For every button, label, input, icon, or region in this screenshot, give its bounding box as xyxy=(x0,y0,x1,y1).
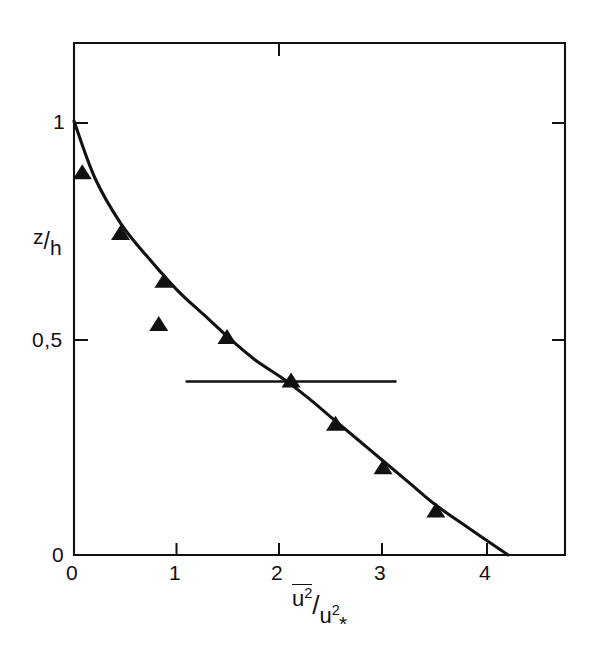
y-axis-label-numerator: z xyxy=(33,225,44,248)
plot-border xyxy=(74,43,565,555)
y-tick-label-0: 0 xyxy=(52,543,64,567)
x-axis-label-denominator-subscript: * xyxy=(339,612,347,635)
y-tick-label-1: 1 xyxy=(53,110,65,134)
data-point-marker xyxy=(326,416,345,431)
x-axis-label: u2/u2* xyxy=(292,592,348,623)
x-tick-label-0: 0 xyxy=(66,561,78,585)
x-axis-label-slash: / xyxy=(312,590,319,620)
x-tick-label-1: 1 xyxy=(169,561,181,585)
axes-frame xyxy=(74,43,565,555)
data-point-marker xyxy=(149,316,168,331)
y-axis-label: z/h xyxy=(33,230,62,253)
x-axis-label-denominator: u2* xyxy=(320,603,348,628)
x-axis-label-numerator-exponent: 2 xyxy=(304,585,312,601)
x-axis-ticks xyxy=(177,543,488,555)
y-axis-label-denominator: h xyxy=(50,236,62,259)
data-point-marker xyxy=(154,273,173,288)
x-tick-label-4: 4 xyxy=(479,561,491,585)
x-axis-label-numerator: u2 xyxy=(292,584,312,611)
x-tick-label-3: 3 xyxy=(374,561,386,585)
y-axis-label-slash: / xyxy=(44,228,50,254)
plot-canvas xyxy=(0,0,595,670)
y-tick-label-0-5: 0,5 xyxy=(32,328,63,352)
fitted-curve xyxy=(74,121,508,555)
y-axis-ticks-right xyxy=(552,123,565,340)
x-tick-label-2: 2 xyxy=(271,561,283,585)
figure-container: 0 1 2 3 4 0 0,5 1 z/h u2/u2* xyxy=(0,0,595,670)
